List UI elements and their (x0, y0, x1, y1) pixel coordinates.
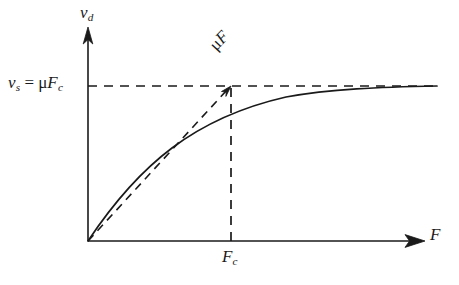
critical-force-subscript: c (232, 255, 237, 267)
saturation-label-mu: μ (38, 73, 47, 92)
saturation-velocity-label: vs = μFc (8, 74, 63, 93)
y-axis-label-subscript: d (88, 11, 94, 23)
critical-force-tick-label: Fc (222, 248, 238, 267)
drift-velocity-curve (88, 86, 437, 241)
saturation-label-equals: = (20, 73, 38, 92)
tangent-line-group (88, 86, 231, 241)
saturation-label-force-subscript: c (58, 81, 63, 93)
x-axis-label: F (430, 226, 440, 243)
saturation-label-v: v (8, 73, 16, 92)
x-axis (88, 235, 425, 248)
saturation-label-force: F (47, 73, 57, 92)
x-axis-label-symbol: F (430, 225, 440, 244)
drift-velocity-force-figure: vd F vs = μFc Fc μF (0, 0, 459, 285)
y-axis (83, 27, 93, 241)
tangent-line (88, 90, 227, 241)
critical-force-symbol: F (222, 247, 232, 266)
y-axis-label-symbol: v (80, 3, 88, 22)
y-axis-label: vd (80, 4, 93, 23)
